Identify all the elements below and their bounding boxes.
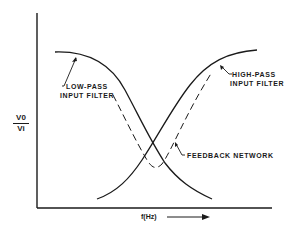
feedback-leader [176,144,185,155]
y-axis-denominator: Vi [13,124,29,134]
high-pass-label-line2: INPUT FILTER [230,79,284,88]
feedback-network-label: FEEDBACK NETWORK [187,151,274,160]
arrowhead-icon [220,65,224,70]
y-axis-label: V0 Vi [13,113,29,134]
low-pass-label-line1: LOW-PASS [66,82,114,91]
arrowhead-icon [72,57,77,62]
low-pass-label: LOW-PASS INPUT FILTER [66,82,114,100]
low-pass-label-line2: INPUT FILTER [60,91,114,100]
high-pass-label-line1: HIGH-PASS [232,70,284,79]
x-axis-label: f(Hz) [141,213,157,220]
y-axis-numerator: V0 [13,113,29,124]
diagram-canvas [0,0,298,231]
high-pass-label: HIGH-PASS INPUT FILTER [232,70,284,88]
arrow-right-icon [202,214,210,220]
low-pass-curve [55,52,212,199]
